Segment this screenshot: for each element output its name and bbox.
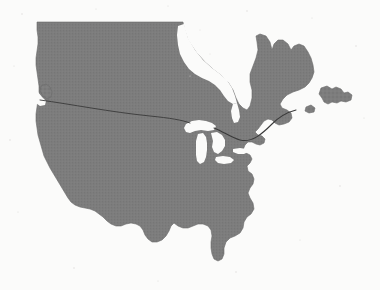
map-figure (0, 0, 380, 290)
map-canvas (0, 0, 380, 290)
